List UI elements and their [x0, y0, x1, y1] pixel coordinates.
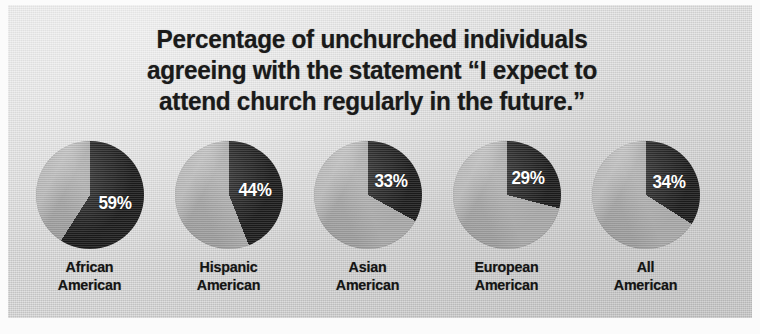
- pie-graphic: 44%: [175, 141, 283, 249]
- pie-category-label: AsianAmerican: [301, 258, 433, 293]
- pie-chart-3[interactable]: 33%AsianAmerican: [298, 141, 437, 293]
- pie-chart-1[interactable]: 59%AfricanAmerican: [20, 141, 159, 293]
- pie-category-label-line: Hispanic: [162, 258, 294, 276]
- pie-category-label-line: American: [440, 276, 572, 294]
- pie-category-label-line: Asian: [301, 258, 433, 276]
- pie-category-label-line: All: [579, 258, 711, 276]
- chart-title-line-2: agreeing with the statement “I expect to: [17, 55, 728, 86]
- pie-percent-label: 44%: [238, 181, 271, 199]
- chart-title-line-1: Percentage of unchurched individuals: [17, 24, 728, 55]
- pie-percent-label: 29%: [511, 169, 544, 187]
- chart-title: Percentage of unchurched individuals agr…: [0, 24, 744, 117]
- pie-chart-row: 59%AfricanAmerican44%HispanicAmerican33%…: [0, 141, 744, 311]
- pie-slices: [453, 141, 561, 249]
- chart-figure: Percentage of unchurched individuals agr…: [0, 0, 760, 334]
- pie-category-label-line: American: [579, 276, 711, 294]
- pie-category-label-line: American: [162, 276, 294, 294]
- pie-percent-label: 34%: [653, 173, 686, 191]
- pie-category-label-line: American: [23, 276, 155, 294]
- pie-slices: [592, 141, 700, 249]
- pie-category-label-line: African: [23, 258, 155, 276]
- pie-chart-2[interactable]: 44%HispanicAmerican: [159, 141, 298, 293]
- pie-category-label: EuropeanAmerican: [440, 258, 572, 293]
- pie-chart-4[interactable]: 29%EuropeanAmerican: [437, 141, 576, 293]
- pie-graphic: 33%: [314, 141, 422, 249]
- pie-category-label: AfricanAmerican: [23, 258, 155, 293]
- pie-percent-label: 33%: [374, 172, 407, 190]
- pie-category-label: HispanicAmerican: [162, 258, 294, 293]
- chart-title-line-3: attend church regularly in the future.”: [17, 86, 728, 117]
- pie-graphic: 34%: [592, 141, 700, 249]
- pie-category-label-line: American: [301, 276, 433, 294]
- pie-slices: [314, 141, 422, 249]
- pie-percent-label: 59%: [99, 194, 132, 212]
- pie-graphic: 29%: [453, 141, 561, 249]
- pie-graphic: 59%: [36, 141, 144, 249]
- pie-chart-5[interactable]: 34%AllAmerican: [576, 141, 715, 293]
- pie-category-label: AllAmerican: [579, 258, 711, 293]
- pie-category-label-line: European: [440, 258, 572, 276]
